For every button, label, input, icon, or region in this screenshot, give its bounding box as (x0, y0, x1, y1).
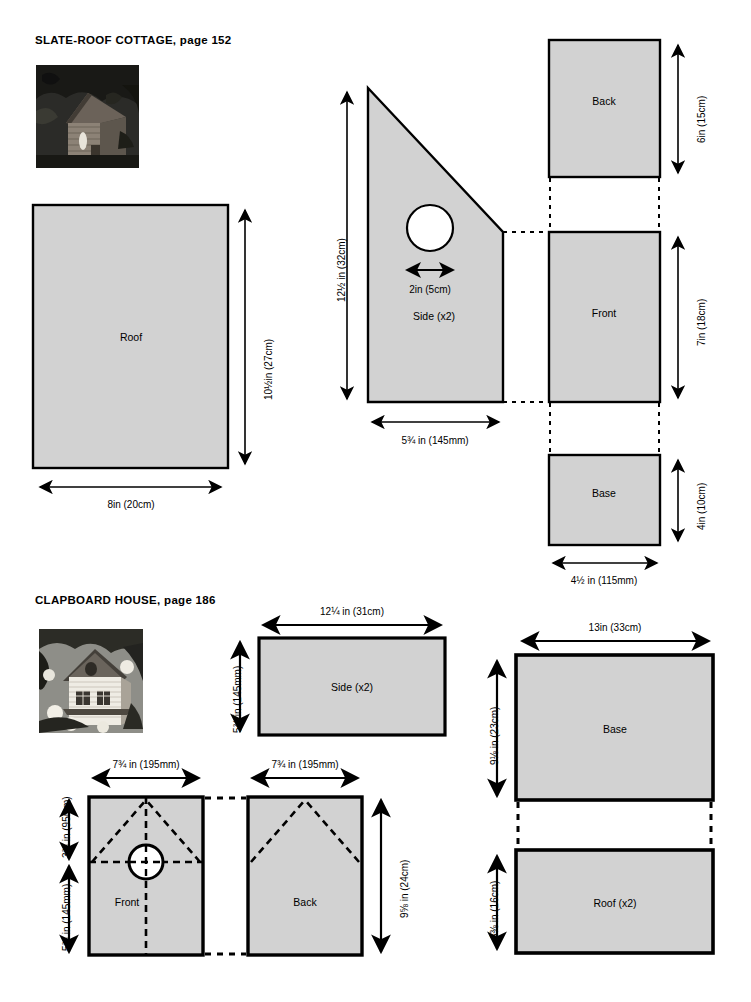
section-title-text: CLAPBOARD HOUSE, (35, 594, 161, 606)
dim-label-s2-front-height-lower: 5¾ in (145mm) (61, 884, 72, 951)
dim-label-s2-base-height: 9⅛ in (23cm) (489, 707, 500, 765)
dim-label-s1-roof-height: 10½in (27cm) (263, 339, 274, 400)
dim-label-s2-side-width: 12¼ in (31cm) (320, 606, 384, 617)
dim-label-s2-side-height: 5¾ in (145mm) (232, 666, 243, 733)
plans-page: SLATE-ROOF COTTAGE, page 152 Roof 8in (2… (0, 0, 751, 1002)
dim-label-s1-side-width: 5¾ in (145mm) (401, 435, 468, 446)
section-title-clapboard-house: CLAPBOARD HOUSE, page 186 (35, 594, 216, 606)
dim-label-s2-back-width: 7¾ in (195mm) (271, 759, 338, 770)
part-label-s1-back: Back (592, 95, 615, 107)
dim-label-s1-roof-width: 8in (20cm) (107, 499, 154, 510)
clapboard-photo-art (39, 629, 143, 733)
dim-label-s1-side-height: 12½ in (32cm) (336, 238, 347, 302)
part-label-s2-roof: Roof (x2) (593, 897, 636, 909)
part-shape-s1-side (368, 88, 503, 402)
section-title-text: SLATE-ROOF COTTAGE, (35, 34, 176, 46)
dim-label-s1-base-height: 4in (10cm) (696, 483, 707, 530)
part-label-s2-front: Front (115, 896, 140, 908)
section-page-ref: page 152 (180, 34, 232, 46)
section-title-slate-roof-cottage: SLATE-ROOF COTTAGE, page 152 (35, 34, 231, 46)
part-shape-s2-back (248, 797, 362, 955)
part-label-s2-side: Side (x2) (331, 681, 373, 693)
fold-lines-s2-frontback (205, 798, 246, 954)
part-label-s2-base: Base (603, 723, 627, 735)
entry-hole-s1-side (407, 205, 453, 251)
part-shape-s1-base (549, 455, 660, 545)
dim-label-s1-side-hole: 2in (5cm) (409, 284, 451, 295)
clapboard-house-photo (39, 629, 143, 733)
slate-roof-cottage-photo (36, 65, 139, 168)
part-label-s1-roof: Roof (120, 331, 142, 343)
part-label-s1-side: Side (x2) (413, 310, 455, 322)
part-shape-s2-front (89, 797, 203, 955)
dim-label-s2-base-width: 13in (33cm) (589, 622, 642, 633)
dim-label-s1-front-height: 7in (18cm) (696, 299, 707, 346)
fold-lines-s2-baseroof (518, 802, 711, 848)
dim-label-s1-base-width: 4½ in (115mm) (571, 575, 638, 586)
dim-label-s2-front-height-upper: 3¾ in (95mm) (61, 796, 72, 858)
dim-label-s2-front-width: 7¾ in (195mm) (112, 759, 179, 770)
dim-label-s2-back-height: 9⅝ in (24cm) (399, 860, 410, 918)
part-label-s1-front: Front (592, 307, 617, 319)
dim-label-s1-back-height: 6in (15cm) (696, 96, 707, 143)
part-shape-s1-back (549, 40, 660, 177)
dim-label-s2-roof-height: 6⅜ in (16cm) (489, 881, 500, 939)
part-label-s1-base: Base (592, 487, 616, 499)
section-page-ref: page 186 (164, 594, 216, 606)
part-label-s2-back: Back (293, 896, 316, 908)
cottage-photo-art (36, 65, 139, 168)
